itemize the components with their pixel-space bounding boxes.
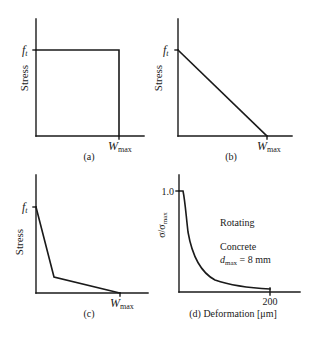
series-line <box>179 191 270 289</box>
panel-a: ft Stress Wmax (a) <box>18 19 144 163</box>
figure-softening-curves: ft Stress Wmax (a) ft Stress Wmax (b) ft… <box>0 0 313 337</box>
panel-caption: (b) <box>225 151 237 163</box>
y-axis-label: Stress <box>152 65 164 91</box>
panel-b: ft Stress Wmax (b) <box>152 19 292 163</box>
x-tick-label: Wmax <box>110 296 134 311</box>
annotation-concrete: Concrete <box>220 241 257 252</box>
panel-caption: (c) <box>83 308 94 320</box>
panel-c: ft Stress Wmax (c) <box>13 175 148 320</box>
x-tick-label: 200 <box>263 296 278 307</box>
y-tick-label: ft <box>22 43 28 58</box>
series-line <box>36 50 119 136</box>
x-tick-label: Wmax <box>257 139 281 154</box>
annotation-rotating: Rotating <box>220 217 254 228</box>
series-line <box>178 50 267 136</box>
panel-caption: (d) Deformation [μm] <box>189 308 277 320</box>
x-tick-label: Wmax <box>108 139 132 154</box>
y-tick-label: ft <box>163 43 169 58</box>
panel-caption: (a) <box>83 151 94 163</box>
y-tick-label: ft <box>22 200 28 215</box>
y-axis-label: σ/σmax <box>156 212 169 238</box>
y-tick-label: 1.0 <box>162 186 175 197</box>
series-line <box>36 207 120 293</box>
y-axis-label: Stress <box>18 65 30 91</box>
y-axis-label: Stress <box>13 229 25 255</box>
panel-d: 1.0 σ/σmax 200 (d) Deformation [μm] Rota… <box>156 175 300 320</box>
annotation-dmax: dmax = 8 mm <box>220 254 271 267</box>
